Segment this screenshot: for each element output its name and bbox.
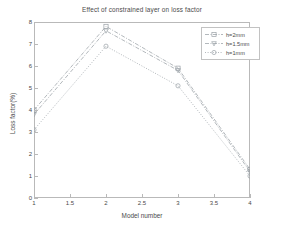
y-axis-label: Loss factor(%) [9, 69, 16, 159]
y-tick-label: 7 [12, 41, 32, 47]
legend-item[interactable]: h=2mm [204, 30, 257, 39]
legend-label: h=1mm [224, 50, 245, 56]
legend-label: h=1.5mm [224, 41, 249, 47]
y-tick-label: 8 [12, 19, 32, 25]
y-tick-label: 1 [12, 173, 32, 179]
chart-legend: h=2mmh=1.5mmh=1mm [201, 27, 260, 60]
x-tick-mark [178, 194, 179, 198]
legend-item[interactable]: h=1.5mm [204, 39, 257, 48]
legend-item[interactable]: h=1mm [204, 48, 257, 57]
y-tick-mark [34, 44, 38, 45]
x-axis-label: Model number [0, 212, 284, 219]
legend-line-sample [204, 30, 224, 39]
data-point-marker [104, 44, 108, 48]
y-tick-mark [34, 154, 38, 155]
x-tick-label: 1 [22, 200, 46, 206]
y-tick-mark [34, 88, 38, 89]
x-tick-mark [106, 194, 107, 198]
y-tick-mark [34, 198, 38, 199]
y-tick-mark [34, 110, 38, 111]
x-tick-label: 4 [238, 200, 262, 206]
legend-label: h=2mm [224, 32, 245, 38]
x-tick-mark [250, 194, 251, 198]
y-tick-mark [34, 22, 38, 23]
y-tick-mark [34, 66, 38, 67]
chart-figure: Effect of constrained layer on loss fact… [0, 0, 284, 236]
x-tick-mark [214, 194, 215, 198]
y-tick-mark [34, 176, 38, 177]
x-tick-label: 3.5 [202, 200, 226, 206]
y-tick-mark [34, 132, 38, 133]
series-line [34, 46, 250, 176]
series-h1mm [34, 44, 250, 178]
legend-line-sample [204, 48, 224, 57]
legend-line-sample [204, 39, 224, 48]
x-tick-label: 2 [94, 200, 118, 206]
x-tick-mark [34, 194, 35, 198]
x-tick-mark [142, 194, 143, 198]
x-tick-mark [70, 194, 71, 198]
x-tick-label: 1.5 [58, 200, 82, 206]
x-tick-label: 2.5 [130, 200, 154, 206]
chart-title: Effect of constrained layer on loss fact… [0, 6, 284, 13]
x-tick-label: 3 [166, 200, 190, 206]
